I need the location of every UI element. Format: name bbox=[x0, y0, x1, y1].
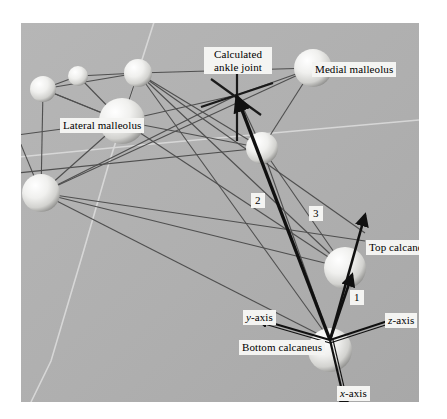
label-top-calcaneus: Top calcaneus bbox=[366, 240, 419, 255]
marker-upper-left-small bbox=[30, 76, 56, 102]
label-calculated-ankle-joint-line2: ankle joint bbox=[214, 61, 262, 73]
label-bottom-calcaneus: Bottom calcaneus bbox=[239, 340, 325, 355]
label-medial-malleolus: Medial malleolus bbox=[312, 62, 396, 77]
label-z-axis-suffix: -axis bbox=[392, 314, 414, 326]
label-x-axis-suffix: -axis bbox=[345, 387, 367, 399]
marker-upper-right-small bbox=[124, 59, 152, 87]
label-lateral-malleolus: Lateral malleolus bbox=[60, 118, 144, 133]
label-z-axis: z-axis bbox=[385, 313, 417, 328]
label-y-axis: y-axis bbox=[243, 310, 276, 325]
label-y-axis-suffix: -axis bbox=[251, 311, 273, 323]
marker-left-lower bbox=[22, 174, 60, 212]
marker-upper-mid-small bbox=[68, 66, 88, 86]
label-segment-three: 3 bbox=[309, 206, 323, 221]
label-segment-two: 2 bbox=[251, 193, 265, 208]
label-segment-one: 1 bbox=[350, 290, 364, 305]
three-d-scene: Calculated ankle joint Medial malleolus … bbox=[21, 23, 419, 402]
figure-container: Calculated ankle joint Medial malleolus … bbox=[0, 0, 447, 419]
label-calculated-ankle-joint-line1: Calculated bbox=[214, 48, 262, 60]
label-x-axis: x-axis bbox=[337, 386, 370, 401]
label-calculated-ankle-joint: Calculated ankle joint bbox=[204, 47, 272, 74]
scene-graphics bbox=[21, 23, 419, 402]
